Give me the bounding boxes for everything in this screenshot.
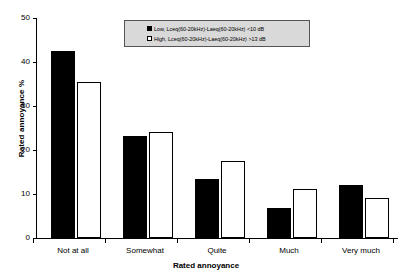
bar-low <box>339 185 363 238</box>
bar-group <box>109 18 181 238</box>
bar-high <box>293 189 317 238</box>
bar-chart: Rated annoyance % 01020304050 Not at all… <box>0 0 412 277</box>
x-tick-label: Quite <box>177 246 257 255</box>
chart-legend: Low, Lceq(60-20kHz)-Laeq(60-20kHz) <10 d… <box>124 20 310 47</box>
y-tick-label: 50 <box>8 14 30 22</box>
bar-low <box>195 179 219 238</box>
legend-item-low: Low, Lceq(60-20kHz)-Laeq(60-20kHz) <10 d… <box>147 24 305 33</box>
x-tick-label: Somewhat <box>105 246 185 255</box>
x-tick-label: Not at all <box>33 246 113 255</box>
bar-high <box>149 132 173 238</box>
x-axis-line <box>33 238 398 239</box>
y-tick-label: 0 <box>8 234 30 242</box>
bar-high <box>77 82 101 238</box>
legend-item-label: High, Lceq(60-20kHz)-Laeq(60-20kHz) >13 … <box>154 36 266 42</box>
bar-group <box>37 18 109 238</box>
bar-high <box>365 198 389 238</box>
plot-area <box>37 18 397 238</box>
x-tick-mark <box>321 239 322 243</box>
bar-group <box>181 18 253 238</box>
x-tick-mark <box>33 239 34 243</box>
legend-item-high: High, Lceq(60-20kHz)-Laeq(60-20kHz) >13 … <box>147 34 305 43</box>
bar-group <box>325 18 397 238</box>
bar-low <box>51 51 75 238</box>
filled-square-icon <box>147 26 152 31</box>
y-axis-title: Rated annoyance % <box>17 49 26 189</box>
x-tick-mark <box>393 239 394 243</box>
bar-low <box>123 136 147 238</box>
legend-item-label: Low, Lceq(60-20kHz)-Laeq(60-20kHz) <10 d… <box>154 26 264 32</box>
x-axis-title: Rated annoyance <box>0 261 412 270</box>
bar-low <box>267 208 291 238</box>
y-tick-label: 10 <box>8 190 30 198</box>
x-tick-mark <box>177 239 178 243</box>
x-tick-mark <box>105 239 106 243</box>
x-tick-mark <box>249 239 250 243</box>
bar-group <box>253 18 325 238</box>
x-tick-label: Much <box>249 246 329 255</box>
bar-high <box>221 161 245 238</box>
y-tick-label: 30 <box>8 102 30 110</box>
y-tick-label: 20 <box>8 146 30 154</box>
y-tick-label: 40 <box>8 58 30 66</box>
open-square-icon <box>147 36 152 41</box>
x-tick-label: Very much <box>321 246 401 255</box>
